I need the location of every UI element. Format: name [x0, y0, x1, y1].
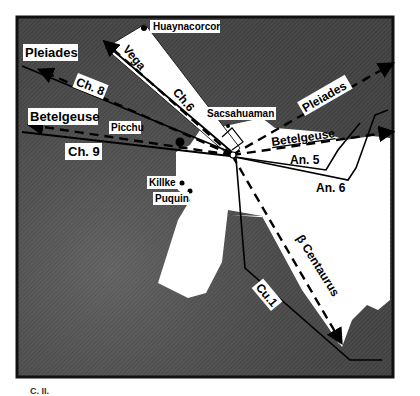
sacsahuaman-dot: [226, 124, 230, 128]
figure-caption-fragment: C. II.: [30, 386, 49, 396]
ceque-star-map: Huaynacorcor Pleiades Ch. 8 Vega Ch.6 Sa…: [0, 0, 420, 396]
huaynacorcor-dot: [141, 25, 147, 31]
label-killke: Killke: [147, 176, 179, 189]
killke-dot: [180, 181, 185, 186]
label-an5: An. 5: [290, 153, 320, 167]
svg-text:Puquin: Puquin: [155, 193, 189, 204]
label-ch9: Ch. 9: [65, 143, 102, 160]
svg-text:Picchu: Picchu: [111, 122, 144, 133]
label-pleiades-west: Pleiades: [23, 44, 78, 61]
center-marker: [230, 152, 236, 158]
svg-text:Pleiades: Pleiades: [25, 45, 78, 60]
svg-text:Betelgeuse: Betelgeuse: [30, 109, 99, 124]
label-betelgeuse-west: Betelgeuse: [28, 108, 99, 125]
label-picchu: Picchu: [109, 121, 144, 134]
label-sacsahuaman: Sacsahuaman: [204, 107, 276, 120]
svg-text:An. 5: An. 5: [290, 153, 320, 167]
svg-text:Huaynacorcor: Huaynacorcor: [153, 21, 220, 32]
label-puquin: Puquin: [153, 192, 189, 205]
label-huaynacorcor: Huaynacorcor: [150, 20, 220, 33]
svg-text:Ch. 9: Ch. 9: [68, 144, 100, 159]
svg-text:An. 6: An. 6: [316, 181, 346, 195]
svg-text:Sacsahuaman: Sacsahuaman: [207, 108, 274, 119]
picchu-dot: [176, 138, 185, 147]
svg-text:Killke: Killke: [149, 177, 176, 188]
label-an6: An. 6: [316, 181, 346, 195]
